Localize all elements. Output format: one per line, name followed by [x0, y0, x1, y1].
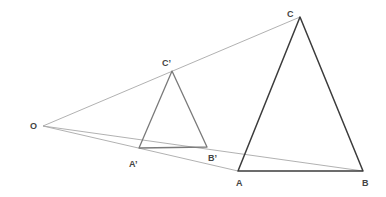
label-o: O — [30, 121, 37, 131]
label-a-prime: A’ — [129, 159, 138, 169]
label-b: B — [362, 178, 369, 188]
label-c-prime: C’ — [162, 58, 171, 68]
label-b-prime: B’ — [208, 153, 217, 163]
label-a: A — [236, 178, 243, 188]
label-c: C — [287, 9, 294, 19]
homothety-diagram: O C’ A’ B’ C A B — [0, 0, 386, 197]
triangle-a-prime-b-prime-c-prime — [139, 71, 207, 148]
triangle-abc — [238, 17, 363, 171]
ray-o-b — [43, 126, 363, 171]
